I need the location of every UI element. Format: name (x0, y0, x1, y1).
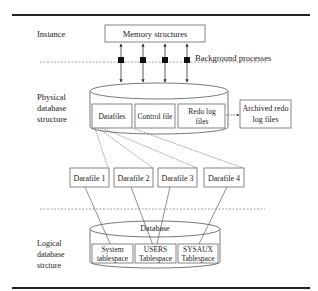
background-processes-label: Background processes (195, 53, 271, 63)
logical-label-3: strcture (37, 261, 61, 270)
control-file-label: Control file (138, 112, 173, 121)
darafile-1-label: Darafile 1 (73, 174, 105, 183)
memory-structures-label: Memory structures (123, 29, 187, 39)
archived-redo-label-1: Archived redo (243, 104, 289, 113)
redo-log-label-1: Redo log (188, 107, 216, 116)
physical-label-2: database (37, 103, 66, 113)
physical-label-3: structure (37, 114, 67, 124)
users-tablespace-label-2: Tablespace (139, 254, 173, 263)
database-title: Database (140, 224, 170, 233)
logical-label-1: Logical (37, 239, 62, 248)
instance-label: Instance (37, 29, 66, 39)
datafiles-label: Datafiles (98, 112, 125, 121)
system-tablespace-label-2: tablespace (97, 254, 129, 263)
system-tablespace-label-1: System (101, 245, 123, 254)
background-process-arrows (121, 44, 187, 82)
redo-log-label-2: files (196, 117, 209, 126)
logical-label-2: database (37, 250, 65, 259)
sysaux-tablespace-label-1: SYSAUX (183, 245, 214, 254)
sysaux-tablespace-label-2: Tablespace (181, 254, 215, 263)
darafile-3-label: Darafile 3 (161, 174, 193, 183)
darafile-4-label: Darafile 4 (208, 174, 240, 183)
users-tablespace-label-1: USERS (144, 245, 167, 254)
physical-label-1: Physical (37, 92, 66, 102)
oracle-architecture-diagram: Instance Physical database structure Log… (0, 0, 318, 291)
archived-redo-label-2: log files (253, 115, 279, 124)
darafile-2-label: Darafile 2 (117, 174, 149, 183)
